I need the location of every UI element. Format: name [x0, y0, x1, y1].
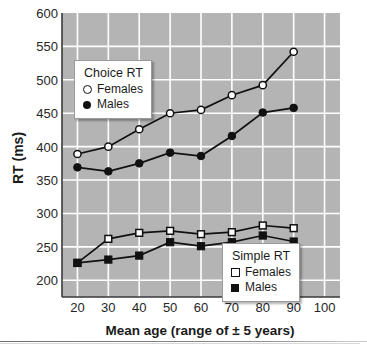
legend-simple-males-row: Males [230, 280, 291, 295]
data-point-marker [136, 229, 143, 236]
legend-choice-males-label: Males [97, 97, 129, 112]
data-point-marker [290, 48, 297, 55]
data-point-marker [290, 225, 297, 232]
data-point-marker [136, 126, 143, 133]
filled-circle-icon [82, 101, 92, 109]
legend-choice-females-label: Females [97, 82, 143, 97]
open-circle-icon [82, 85, 92, 94]
x-tick-label: 100 [305, 300, 345, 315]
legend-choice-females-row: Females [82, 82, 143, 97]
chart-figure: 600550500450400350300250200 203040506070… [0, 0, 367, 352]
page-divider-rule-faint [0, 343, 360, 344]
data-point-marker [228, 132, 236, 140]
legend-simple-title: Simple RT [230, 248, 291, 264]
data-point-marker [135, 160, 143, 168]
y-tick-label: 200 [18, 273, 58, 288]
data-point-marker [198, 231, 205, 238]
data-point-marker [259, 109, 267, 117]
data-point-marker [105, 143, 112, 150]
data-point-marker [167, 239, 174, 246]
y-tick-label: 500 [18, 72, 58, 87]
y-tick-label: 550 [18, 39, 58, 54]
data-point-marker [259, 232, 266, 239]
data-point-marker [197, 152, 205, 160]
data-point-marker [74, 150, 81, 157]
data-point-marker [167, 110, 174, 117]
y-axis-title: RT (ms) [10, 118, 26, 198]
legend-simple-females-label: Females [245, 265, 291, 280]
legend-simple-rt: Simple RT Females Males [222, 243, 300, 302]
legend-choice-males-row: Males [82, 97, 143, 112]
data-point-marker [259, 222, 266, 229]
y-tick-label: 300 [18, 206, 58, 221]
data-point-marker [136, 252, 143, 259]
data-point-marker [74, 164, 82, 172]
x-axis-title: Mean age (range of ± 5 years) [50, 323, 350, 338]
data-point-marker [197, 243, 204, 250]
legend-simple-females-row: Females [230, 265, 291, 280]
y-tick-label: 250 [18, 239, 58, 254]
filled-square-icon [230, 284, 240, 292]
data-point-marker [74, 259, 81, 266]
data-point-marker [197, 106, 204, 113]
y-tick-label: 600 [18, 6, 58, 21]
legend-choice-rt: Choice RT Females Males [74, 60, 152, 119]
data-point-marker [166, 149, 174, 157]
data-point-marker [105, 256, 112, 263]
data-point-marker [228, 92, 235, 99]
data-point-marker [259, 82, 266, 89]
legend-choice-title: Choice RT [82, 65, 143, 81]
data-point-marker [105, 168, 113, 176]
data-point-marker [167, 227, 174, 234]
data-point-marker [105, 235, 112, 242]
open-square-icon [230, 268, 240, 277]
data-point-marker [228, 229, 235, 236]
legend-simple-males-label: Males [245, 280, 277, 295]
data-point-marker [290, 104, 298, 112]
